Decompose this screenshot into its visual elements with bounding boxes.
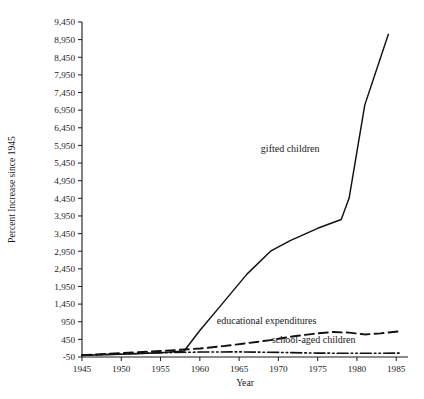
x-tick-label: 1985 [387,364,406,374]
y-tick-label: 2,450 [54,264,75,274]
chart-figure: -504509501,4501,9502,4502,9503,4503,9504… [0,0,424,399]
x-axis-title: Year [236,377,254,388]
y-tick-label: 3,450 [54,229,75,239]
y-tick-label: 7,450 [54,88,75,98]
x-tick-label: 1955 [151,364,170,374]
y-tick-label: 8,450 [54,53,75,63]
line-chart: -504509501,4501,9502,4502,9503,4503,9504… [0,0,424,399]
y-tick-label: 6,950 [54,105,75,115]
y-tick-label: 5,950 [54,141,75,151]
x-tick-label: 1965 [230,364,249,374]
x-tick-label: 1970 [269,364,288,374]
y-tick-label: 450 [61,335,75,345]
y-tick-label: 4,950 [54,176,75,186]
y-axis-title: Percent Increase since 1945 [6,136,17,243]
y-tick-label: 3,950 [54,211,75,221]
y-tick-label: 5,450 [54,158,75,168]
series-label-0: gifted children [261,143,320,154]
y-tick-label: 9,450 [54,17,75,27]
y-tick-label: 7,950 [54,70,75,80]
y-tick-label: 1,450 [54,299,75,309]
x-tick-label: 1945 [73,364,92,374]
series-label-2: school-aged children [272,334,356,345]
y-tick-label: 4,450 [54,194,75,204]
x-tick-label: 1980 [348,364,367,374]
y-tick-label: 1,950 [54,282,75,292]
y-tick-label: 6,450 [54,123,75,133]
series-label-1: educational expenditures [217,315,317,326]
y-tick-label: 8,950 [54,35,75,45]
x-tick-label: 1950 [112,364,131,374]
series-line-0 [82,34,388,355]
y-tick-label: 950 [61,317,75,327]
y-tick-label: -50 [63,352,76,362]
y-tick-label: 2,950 [54,247,75,257]
x-tick-label: 1960 [191,364,210,374]
x-tick-label: 1975 [308,364,327,374]
